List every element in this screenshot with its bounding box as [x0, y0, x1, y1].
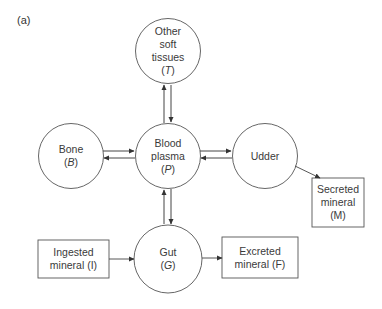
panel-label: (a) — [17, 14, 30, 26]
bone-label: Bone (B) — [39, 124, 103, 188]
arrow-udder-to-secreted — [295, 166, 320, 178]
tissues-line-2: soft — [160, 38, 177, 51]
gut-line-1: Gut — [160, 246, 177, 259]
udder-label: Udder — [233, 124, 297, 188]
bone-line-1: Bone — [59, 143, 84, 156]
udder-line-1: Udder — [251, 150, 280, 163]
tissues-line-3: tissues — [152, 51, 185, 64]
plasma-label: Blood plasma (P) — [136, 124, 200, 188]
plasma-line-1: Blood — [155, 137, 182, 150]
gut-symbol: (G) — [160, 259, 175, 272]
excreted-line-1: Excreted — [239, 245, 280, 258]
bone-symbol: (B) — [64, 156, 78, 169]
excreted-label: Excreted mineral (F) — [222, 237, 298, 278]
secreted-line-3: (M) — [330, 209, 346, 222]
ingested-label: Ingested mineral (I) — [38, 240, 109, 278]
tissues-symbol: (T) — [161, 64, 174, 77]
secreted-line-1: Secreted — [317, 183, 359, 196]
tissues-label: Other soft tissues (T) — [136, 19, 200, 83]
tissues-line-1: Other — [155, 25, 181, 38]
gut-label: Gut (G) — [136, 226, 200, 292]
ingested-line-2: mineral (I) — [50, 259, 97, 272]
ingested-line-1: Ingested — [53, 246, 93, 259]
plasma-line-2: plasma — [151, 150, 185, 163]
plasma-symbol: (P) — [161, 163, 175, 176]
excreted-line-2: mineral (F) — [235, 258, 286, 271]
secreted-label: Secreted mineral (M) — [312, 178, 364, 227]
secreted-line-2: mineral — [321, 196, 355, 209]
